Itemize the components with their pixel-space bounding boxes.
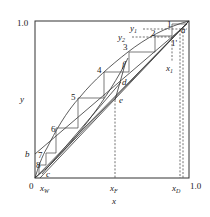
stage-4-label: 4 [97, 65, 102, 75]
y-max-label: 1.0 [17, 18, 29, 28]
point-e-label: e [119, 95, 123, 105]
stage-3-label: 3 [123, 42, 128, 52]
stage-8-label: 8 [36, 160, 41, 170]
stage-1-label: 1 [167, 19, 172, 29]
point-c-label: c [46, 169, 50, 179]
x1-label: x1 [165, 63, 173, 74]
stage-7-label: 7 [38, 150, 43, 160]
x-max-label: 1.0 [190, 181, 202, 191]
stage-5-label: 5 [71, 92, 76, 102]
stage-2-label: 2 [151, 28, 156, 38]
origin-label: 0 [29, 181, 34, 191]
stage-6-label: 6 [51, 124, 56, 134]
xd-label: xD [171, 183, 181, 194]
point-one-prime-label: 1' [171, 38, 178, 48]
point-b-label: b [25, 149, 30, 159]
x-axis-label: x [111, 196, 116, 206]
xw-label: xW [39, 183, 50, 194]
point-a-label: a [181, 25, 186, 35]
mccabe-thiele-diagram: 1.0 0 1.0 y x xW xF xD y1 y2 x1 a 1' b c… [0, 0, 210, 217]
y1-label: y1 [129, 23, 137, 34]
point-d-label: d [122, 77, 127, 87]
y-axis-label: y [19, 94, 24, 104]
xf-label: xF [109, 183, 118, 194]
q-curve [35, 58, 128, 178]
